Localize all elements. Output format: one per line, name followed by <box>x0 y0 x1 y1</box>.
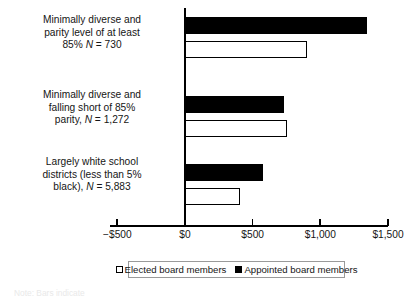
legend-swatch-open-icon <box>116 266 123 273</box>
footnote-text: Note: Bars indicate <box>14 288 85 297</box>
bar-elected-3 <box>185 188 240 205</box>
legend-entry-elected: Elected board members <box>116 264 227 275</box>
x-tick-mark-4 <box>387 219 389 226</box>
bar-appointed-2 <box>185 96 284 113</box>
x-axis-line <box>110 225 388 227</box>
plot-area: −$500 $0 $500 $1,000 $1,500 <box>0 0 416 232</box>
legend-swatch-filled-icon <box>235 266 242 273</box>
chart-legend: Elected board members Appointed board me… <box>128 261 345 278</box>
x-tick-mark-3 <box>319 219 321 226</box>
x-tick-mark-0 <box>116 219 118 226</box>
x-tick-mark-1 <box>184 219 186 226</box>
x-tick-label-0: −$500 <box>82 229 152 240</box>
x-tick-label-1: $0 <box>150 229 220 240</box>
legend-label-appointed: Appointed board members <box>244 264 357 275</box>
x-tick-mark-2 <box>252 219 254 226</box>
bar-appointed-1 <box>185 17 367 34</box>
legend-entry-appointed: Appointed board members <box>235 264 357 275</box>
bar-elected-1 <box>185 41 307 58</box>
legend-label-elected: Elected board members <box>125 264 227 275</box>
bar-appointed-3 <box>185 164 263 181</box>
x-tick-label-3: $1,000 <box>285 229 355 240</box>
bar-chart: Minimally diverse and parity level of at… <box>0 0 416 297</box>
x-tick-label-2: $500 <box>218 229 288 240</box>
bar-elected-2 <box>185 120 287 137</box>
x-tick-label-4: $1,500 <box>353 229 416 240</box>
